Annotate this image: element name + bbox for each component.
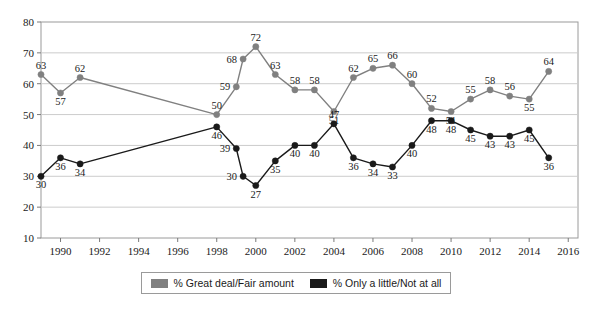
y-axis-tick-label: 80 (23, 16, 35, 28)
data-point[interactable] (253, 44, 259, 50)
y-axis-tick-label: 10 (23, 232, 35, 244)
data-point[interactable] (233, 84, 239, 90)
y-axis-tick-label: 20 (23, 201, 35, 213)
data-point-label: 58 (290, 75, 301, 86)
data-point-label: 48 (446, 124, 457, 135)
legend-item[interactable]: % Only a little/Not at all (310, 277, 442, 289)
data-point[interactable] (272, 71, 278, 77)
data-point-label: 55 (465, 84, 476, 95)
legend-item-label: % Only a little/Not at all (333, 277, 442, 289)
legend-item-label: % Great deal/Fair amount (174, 277, 294, 289)
data-point[interactable] (389, 62, 395, 68)
series-great-deal: 6357625059687263585851626566605251555856… (36, 32, 555, 126)
chart-root: 1020304050607080199019921994199619982000… (0, 0, 592, 310)
x-axis-tick-label: 1994 (128, 245, 151, 257)
data-point-label: 66 (387, 50, 398, 61)
data-point-label: 56 (504, 81, 515, 92)
data-point[interactable] (77, 74, 83, 80)
y-axis-tick-label: 60 (23, 78, 35, 90)
data-point-label: 40 (407, 148, 418, 159)
series-only-little: 3036344639302735404047363433404848454343… (36, 109, 554, 200)
x-axis-tick-label: 1996 (167, 245, 190, 257)
x-axis-tick-label: 2016 (557, 245, 580, 257)
data-point-label: 62 (348, 63, 359, 74)
data-point[interactable] (311, 87, 317, 93)
data-point-label: 55 (524, 102, 535, 113)
data-point-label: 47 (329, 109, 340, 120)
data-point-label: 30 (36, 179, 47, 190)
data-point-label: 57 (55, 96, 66, 107)
data-point-label: 62 (75, 63, 86, 74)
data-point-label: 48 (426, 124, 437, 135)
y-axis-tick-label: 40 (23, 139, 35, 151)
x-axis-tick-label: 2008 (401, 245, 424, 257)
plot-frame (41, 22, 578, 238)
data-point-label: 59 (220, 81, 231, 92)
data-point-label: 40 (309, 148, 320, 159)
data-point-label: 34 (75, 167, 86, 178)
data-point-label: 52 (426, 93, 437, 104)
data-point-label: 65 (368, 53, 379, 64)
data-point[interactable] (38, 71, 44, 77)
x-axis-tick-label: 1992 (89, 245, 111, 257)
data-point[interactable] (487, 87, 493, 93)
data-point-label: 36 (55, 161, 66, 172)
data-point[interactable] (331, 121, 337, 127)
data-point-label: 34 (368, 167, 379, 178)
data-point-label: 58 (485, 75, 496, 86)
data-point-label: 50 (211, 100, 222, 111)
data-point-label: 39 (220, 143, 231, 154)
chart-legend: % Great deal/Fair amount% Only a little/… (141, 272, 451, 294)
data-point-label: 68 (227, 54, 238, 65)
data-point[interactable] (214, 112, 220, 118)
data-point-label: 27 (251, 189, 262, 200)
y-axis-tick-label: 30 (23, 170, 35, 182)
x-axis-tick-label: 1990 (50, 245, 73, 257)
data-point[interactable] (240, 56, 246, 62)
data-point-label: 63 (270, 60, 281, 71)
x-axis-tick-label: 2006 (362, 245, 385, 257)
data-point-label: 36 (348, 161, 359, 172)
data-point-label: 45 (465, 133, 476, 144)
data-point-label: 40 (290, 148, 301, 159)
data-point-label: 45 (524, 133, 535, 144)
data-point[interactable] (240, 173, 246, 179)
x-axis-tick-label: 2010 (440, 245, 463, 257)
data-point-label: 43 (485, 139, 496, 150)
data-point[interactable] (233, 145, 239, 151)
data-point[interactable] (546, 68, 552, 74)
legend-swatch-great-deal (151, 279, 168, 288)
data-point-label: 30 (227, 171, 238, 182)
x-axis-tick-label: 2002 (284, 245, 306, 257)
data-point[interactable] (507, 93, 513, 99)
data-point-label: 35 (270, 164, 281, 175)
x-axis-tick-label: 2000 (245, 245, 268, 257)
data-point-label: 58 (309, 75, 320, 86)
data-point[interactable] (292, 87, 298, 93)
data-point-label: 60 (407, 69, 418, 80)
data-point-label: 63 (36, 60, 47, 71)
x-axis-tick-label: 2004 (323, 245, 346, 257)
data-point-label: 72 (251, 32, 262, 43)
line-chart: 1020304050607080199019921994199619982000… (0, 0, 592, 266)
data-point-label: 33 (387, 170, 398, 181)
data-point[interactable] (370, 65, 376, 71)
y-axis-tick-label: 50 (23, 109, 35, 121)
data-point-label: 43 (504, 139, 515, 150)
legend-swatch-only-little (310, 279, 327, 288)
data-point-label: 64 (543, 56, 554, 67)
x-axis-tick-label: 1998 (206, 245, 229, 257)
data-point[interactable] (428, 105, 434, 111)
y-axis-tick-label: 70 (23, 47, 35, 59)
legend-item[interactable]: % Great deal/Fair amount (151, 277, 294, 289)
data-point[interactable] (468, 96, 474, 102)
x-axis-tick-label: 2012 (479, 245, 501, 257)
x-axis-tick-label: 2014 (518, 245, 541, 257)
data-point[interactable] (409, 81, 415, 87)
data-point-label: 36 (543, 161, 554, 172)
data-point[interactable] (350, 74, 356, 80)
data-point-label: 46 (211, 130, 222, 141)
